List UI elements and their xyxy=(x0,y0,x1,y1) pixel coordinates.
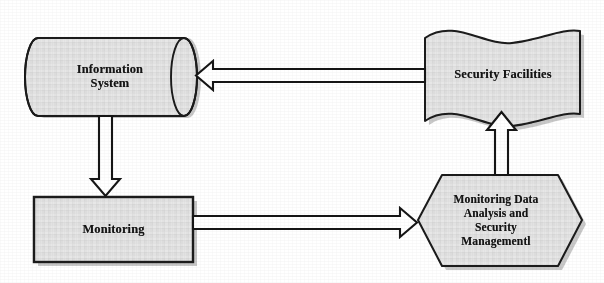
node-monitoring[interactable] xyxy=(34,197,193,262)
node-monitoring-data-analysis[interactable] xyxy=(418,175,582,266)
diagram-canvas: Information System Security Facilities M… xyxy=(0,0,604,283)
node-information-system[interactable] xyxy=(25,38,197,116)
arrow-monitoring-to-analysis xyxy=(193,208,417,237)
arrow-security-facilities-to-information-system xyxy=(196,61,425,90)
diagram-vector-layer xyxy=(0,0,604,283)
arrow-information-system-to-monitoring xyxy=(91,116,120,196)
